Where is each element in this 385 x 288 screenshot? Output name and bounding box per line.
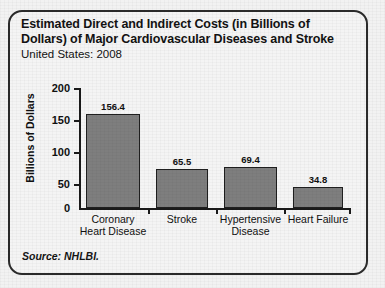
x-category-line-1: Hypertensive xyxy=(209,213,292,225)
chart-page: Estimated Direct and Indirect Costs (in … xyxy=(0,0,385,288)
y-tick-label-150: 150 xyxy=(36,114,70,126)
y-tick-label-50: 50 xyxy=(36,178,70,190)
y-tick-label-0: 0 xyxy=(36,202,70,214)
x-category-line-1: Stroke xyxy=(146,213,218,225)
x-category-label-stroke: Stroke xyxy=(146,213,218,225)
y-tick-label-200: 200 xyxy=(36,82,70,94)
x-category-label-heart-failure: Heart Failure xyxy=(282,213,354,225)
y-axis-label: Billions of Dollars xyxy=(24,83,36,193)
y-tick-label-100: 100 xyxy=(36,146,70,158)
x-category-label-coronary-heart-disease: Coronary Heart Disease xyxy=(73,213,153,237)
x-category-line-2: Disease xyxy=(209,225,292,237)
chart-frame: Estimated Direct and Indirect Costs (in … xyxy=(8,10,368,275)
bar-coronary-heart-disease xyxy=(86,114,140,208)
x-category-line-1: Heart Failure xyxy=(282,213,354,225)
plot-area: Billions of Dollars 200 150 100 50 0 xyxy=(10,12,370,273)
bar-value-stroke: 65.5 xyxy=(156,156,208,167)
bar-stroke xyxy=(156,169,208,208)
source-note: Source: NHLBI. xyxy=(22,250,99,262)
bar-value-hypertensive-disease: 69.4 xyxy=(224,154,277,165)
x-axis-line xyxy=(79,208,351,210)
bar-hypertensive-disease xyxy=(224,167,277,208)
bar-heart-failure xyxy=(293,187,343,208)
bar-value-heart-failure: 34.8 xyxy=(293,174,343,185)
x-category-label-hypertensive-disease: Hypertensive Disease xyxy=(209,213,292,237)
y-axis-line xyxy=(79,88,81,210)
x-category-line-1: Coronary xyxy=(73,213,153,225)
bar-value-coronary-heart-disease: 156.4 xyxy=(86,101,140,112)
x-category-line-2: Heart Disease xyxy=(73,225,153,237)
